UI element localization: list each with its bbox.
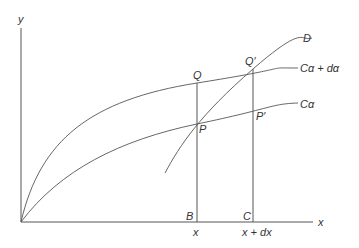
label-c-alpha-dalpha: Cα + dα	[300, 62, 340, 74]
tick-x: x	[192, 226, 199, 238]
diagram-canvas: y x D Cα + dα Cα Q Q′ P P′ B C x x + dx	[0, 0, 359, 248]
label-c: C	[243, 210, 251, 222]
curve-c-alpha-dalpha	[21, 68, 298, 222]
label-p-prime: P′	[256, 110, 266, 122]
label-q: Q	[193, 69, 202, 81]
label-d: D	[303, 32, 311, 44]
x-axis-label: x	[317, 216, 324, 228]
label-p: P	[199, 123, 207, 135]
label-q-prime: Q′	[245, 55, 257, 67]
tick-x-dx: x + dx	[241, 226, 272, 238]
label-c-alpha: Cα	[300, 98, 315, 110]
label-b: B	[186, 210, 193, 222]
curve-d	[165, 37, 312, 173]
y-axis-label: y	[17, 13, 25, 25]
